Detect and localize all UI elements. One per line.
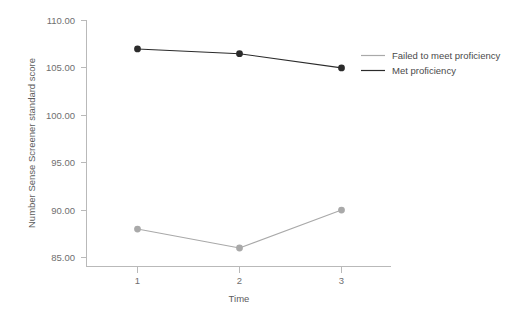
x-tick-labels: 1 2 3 [135, 275, 344, 286]
x-axis-title: Time [229, 293, 250, 304]
y-tick-labels: 110.00 105.00 100.00 95.00 90.00 85.00 [46, 15, 75, 263]
x-tickmarks [138, 267, 342, 273]
y-tick-label: 105.00 [46, 62, 75, 73]
y-tickmarks [81, 21, 87, 258]
series-failed-to-meet-proficiency [134, 207, 345, 252]
axis-spines [87, 21, 391, 267]
x-tick-label: 1 [135, 275, 140, 286]
data-point [236, 245, 243, 252]
y-axis-title: Number Sense Screener standard score [26, 58, 37, 228]
y-tick-label: 95.00 [51, 157, 75, 168]
legend-item-failed[interactable]: Failed to meet proficiency [361, 50, 500, 61]
y-tick-label: 85.00 [51, 252, 75, 263]
line-chart: 110.00 105.00 100.00 95.00 90.00 85.00 1… [0, 0, 521, 317]
data-point [134, 226, 141, 233]
legend-label-failed: Failed to meet proficiency [392, 50, 500, 61]
series-markers-met [134, 46, 345, 72]
x-tick-label: 2 [237, 275, 242, 286]
legend-label-met: Met proficiency [392, 65, 456, 76]
y-tick-label: 100.00 [46, 110, 75, 121]
y-tick-label: 110.00 [47, 15, 75, 26]
chart-figure: 110.00 105.00 100.00 95.00 90.00 85.00 1… [0, 0, 521, 317]
series-line-failed [138, 210, 342, 248]
legend-item-met[interactable]: Met proficiency [361, 65, 456, 76]
data-point [134, 46, 141, 53]
y-tick-label: 90.00 [51, 205, 75, 216]
series-markers-failed [134, 207, 345, 252]
data-point [236, 50, 243, 57]
chart-legend: Failed to meet proficiency Met proficien… [361, 50, 500, 76]
series-met-proficiency [134, 46, 345, 72]
x-tick-label: 3 [339, 275, 344, 286]
data-point [338, 207, 345, 214]
data-point [338, 65, 345, 72]
